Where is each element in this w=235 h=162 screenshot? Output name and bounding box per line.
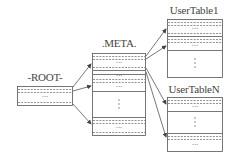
ut1-ellipsis-1: ···	[192, 25, 199, 33]
edges-root-meta	[73, 64, 91, 124]
meta-ellipsis-1: ···	[116, 59, 123, 67]
diagram-canvas: ··· ··· ··· ··· ··· ··· ··· ··· ···	[0, 0, 235, 162]
edges-meta-usertable1	[146, 29, 166, 59]
utN-ellipsis-1: ···	[192, 103, 199, 111]
edges-meta-usertableN	[146, 68, 166, 137]
meta-ellipsis-4: ···	[116, 124, 123, 132]
meta-ellipsis-2: ···	[116, 72, 123, 80]
root-ellipsis: ···	[42, 93, 49, 101]
ut1-ellipsis-2: ···	[192, 42, 199, 50]
utN-ellipsis-2: ···	[192, 141, 199, 149]
meta-ellipsis-3: ···	[116, 83, 123, 91]
